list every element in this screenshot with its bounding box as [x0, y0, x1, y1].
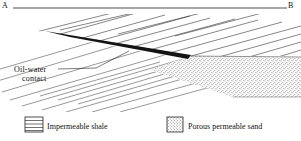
- oil-water-contact-label-line1: Oil-water: [14, 65, 46, 74]
- sand-body: [150, 56, 301, 97]
- section-label-a: A: [2, 1, 8, 10]
- legend-swatch-sand: [167, 117, 183, 132]
- legend-swatch-shale: [25, 117, 43, 132]
- cross-section-figure: A B Oil-water contact Impermeable shale …: [0, 0, 301, 141]
- legend-label-sand: Porous permeable sand: [188, 122, 262, 131]
- section-label-b: B: [288, 1, 294, 10]
- oil-wedge: [45, 31, 192, 59]
- oil-water-contact-label-line2: contact: [22, 74, 47, 83]
- legend-label-shale: Impermeable shale: [47, 122, 108, 131]
